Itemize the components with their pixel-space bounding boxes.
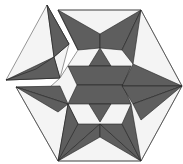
detached-wedge-piece <box>6 5 69 80</box>
hexagon-puzzle-figure <box>0 0 183 164</box>
